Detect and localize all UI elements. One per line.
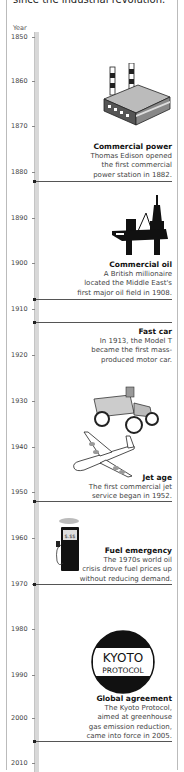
event-desc-line: The 1970s world oil — [52, 556, 172, 565]
axis-tick-mark — [32, 763, 35, 764]
event-global-agreement: Global agreement The Kyoto Protocol, aim… — [52, 694, 172, 741]
axis-tick-label: 1910 — [11, 305, 32, 313]
intro-text: since the industrial revolution. — [13, 0, 165, 5]
model-t-car-icon — [90, 385, 160, 435]
axis-tick-mark — [32, 81, 35, 82]
axis-tick-label: 1930 — [11, 397, 32, 405]
event-desc-line: came into force in 2005. — [52, 732, 172, 741]
event-desc-line: produced motor car. — [52, 356, 172, 365]
axis-title: Year — [13, 24, 27, 32]
axis-tick-mark — [32, 218, 35, 219]
event-title: Jet age — [52, 473, 172, 483]
event-desc-line: first major oil field in 1908. — [52, 289, 172, 298]
event-desc-line: became the first mass- — [52, 346, 172, 355]
axis-tick-label: 1890 — [11, 214, 32, 222]
event-desc-line: In 1913, the Model T — [52, 337, 172, 346]
axis-tick-label: 1920 — [11, 351, 32, 359]
event-line-1882 — [34, 181, 172, 182]
axis-tick-mark — [32, 37, 35, 38]
event-commercial-power: Commercial power Thomas Edison opened th… — [52, 142, 172, 180]
axis-tick-mark — [32, 447, 35, 448]
event-desc-line: crisis drove fuel prices up — [52, 565, 172, 574]
event-fast-car: Fast car In 1913, the Model T became the… — [52, 327, 172, 365]
event-marker-1970 — [33, 583, 36, 586]
event-desc-line: Thomas Edison opened — [52, 152, 172, 161]
event-title: Commercial oil — [52, 260, 172, 270]
event-title: Fuel emergency — [52, 546, 172, 556]
kyoto-logo-line2: PROTOCOL — [102, 666, 144, 675]
axis-tick-label: 1950 — [11, 488, 32, 496]
axis-tick-mark — [32, 263, 35, 264]
axis-tick-mark — [32, 718, 35, 719]
event-desc-line: aimed at greenhouse — [52, 713, 172, 722]
event-marker-1908 — [33, 298, 36, 301]
event-marker-1952 — [33, 500, 36, 503]
timeline-bar — [34, 32, 39, 772]
power-station-icon — [100, 63, 172, 133]
event-marker-2005 — [33, 740, 36, 743]
axis-tick-mark — [32, 172, 35, 173]
axis-tick-label: 1990 — [11, 671, 32, 679]
axis-tick-label: 1940 — [11, 443, 32, 451]
event-desc-line: the first commercial — [52, 161, 172, 170]
axis-tick-label: 1870 — [11, 122, 32, 130]
axis-tick-mark — [32, 492, 35, 493]
axis-tick-label: 1970 — [11, 580, 32, 588]
event-line-1970 — [34, 584, 172, 585]
axis-tick-mark — [32, 675, 35, 676]
event-desc-line: gas emission reduction, — [52, 723, 172, 732]
axis-tick-label: 2000 — [11, 714, 32, 722]
axis-tick-mark — [32, 309, 35, 310]
axis-tick-label: 2010 — [11, 759, 32, 767]
event-title: Global agreement — [52, 694, 172, 704]
axis-tick-mark — [32, 401, 35, 402]
event-desc-line: The first commercial jet — [52, 483, 172, 492]
axis-tick-mark — [32, 629, 35, 630]
event-fuel-emergency: Fuel emergency The 1970s world oil crisi… — [52, 546, 172, 584]
event-jet-age: Jet age The first commercial jet service… — [52, 473, 172, 502]
event-marker-1882 — [33, 180, 36, 183]
axis-tick-label: 1860 — [11, 77, 32, 85]
axis-tick-label: 1880 — [11, 168, 32, 176]
event-desc-line: power station in 1882. — [52, 171, 172, 180]
event-line-1913 — [34, 322, 172, 323]
event-commercial-oil: Commercial oil A British millionaire loc… — [52, 260, 172, 298]
event-desc-line: without reducing demand. — [52, 575, 172, 584]
axis-tick-mark — [32, 126, 35, 127]
axis-tick-label: 1900 — [11, 259, 32, 267]
kyoto-logo-line1: KYOTO — [103, 651, 143, 665]
event-title: Fast car — [52, 327, 172, 337]
event-marker-1913 — [33, 321, 36, 324]
axis-tick-label: 1960 — [11, 534, 32, 542]
oil-rig-icon — [112, 195, 170, 255]
axis-tick-mark — [32, 355, 35, 356]
axis-tick-label: 1850 — [11, 33, 32, 41]
axis-tick-label: 1980 — [11, 625, 32, 633]
event-desc-line: A British millionaire — [52, 270, 172, 279]
pump-display: $.$$ — [64, 533, 75, 539]
axis-tick-mark — [32, 538, 35, 539]
event-line-1908 — [34, 299, 172, 300]
kyoto-protocol-icon: KYOTO PROTOCOL — [91, 630, 155, 694]
event-desc-line: service began in 1952. — [52, 492, 172, 501]
event-desc-line: located the Middle East's — [52, 279, 172, 288]
event-desc-line: The Kyoto Protocol, — [52, 704, 172, 713]
event-title: Commercial power — [52, 142, 172, 152]
